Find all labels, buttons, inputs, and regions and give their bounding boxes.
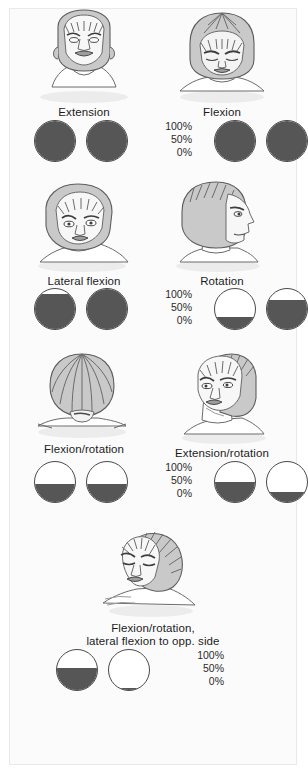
scale-label-0: 0%	[152, 487, 192, 500]
assessment-item-lateral-flexion: Lateral flexion	[16, 178, 152, 289]
gauge-right	[86, 461, 128, 503]
gauge-row: 100% 50% 0%	[10, 120, 296, 162]
gauge-left	[34, 120, 76, 162]
gauge-row: 100% 50% 0%	[10, 649, 296, 691]
scale-label-50: 50%	[152, 133, 192, 146]
gauge-right	[266, 461, 306, 503]
assessment-row-extension-flexion: Extension Flexio	[10, 9, 296, 162]
scale-label-100: 100%	[152, 461, 192, 474]
gauge-right	[86, 288, 128, 330]
gauge-right	[266, 120, 306, 162]
scale-label-50: 50%	[168, 662, 224, 675]
gauge-left	[34, 288, 76, 330]
gauge-left	[214, 120, 256, 162]
figure-panel: Extension Flexio	[9, 8, 297, 765]
assessment-row-flexionrotation-lateral: Flexion/rotation, lateral flexion to opp…	[10, 525, 296, 691]
assessment-label: Extension/rotation	[175, 447, 269, 461]
assessment-item-rotation: Rotation	[154, 178, 290, 289]
head-rotation-profile-icon	[160, 178, 284, 274]
gauge-group-right	[192, 461, 306, 503]
gauge-group-left	[16, 288, 152, 330]
assessment-item-extension: Extension	[16, 9, 152, 120]
scale-label-100: 100%	[152, 288, 192, 301]
assessment-row-flexionrotation-extensionrotation: Flexion/rotation	[10, 346, 296, 503]
gauge-left	[214, 288, 256, 330]
assessment-label: Extension	[58, 106, 109, 120]
assessment-item-flexion-rotation: Flexion/rotation	[16, 346, 152, 461]
gauge-group-right	[192, 120, 306, 162]
gauge-left	[56, 649, 98, 691]
gauge-right	[86, 120, 128, 162]
head-extension-rotation-icon	[160, 346, 284, 446]
scale-label-100: 100%	[168, 649, 224, 662]
gauge-scale: 100% 50% 0%	[152, 461, 194, 500]
scale-label-50: 50%	[152, 474, 192, 487]
assessment-label: Flexion/rotation	[44, 443, 124, 457]
head-extension-front-icon	[22, 9, 146, 105]
gauge-group-left	[16, 461, 152, 503]
assessment-label: Rotation	[200, 275, 244, 289]
assessment-row-lateralflexion-rotation: Lateral flexion Rotation	[10, 178, 296, 331]
gauge-scale: 100% 50% 0%	[152, 649, 226, 688]
assessment-label: Flexion	[203, 106, 241, 120]
gauge-group-left	[16, 120, 152, 162]
scale-label-0: 0%	[168, 675, 224, 688]
head-flexion-rotation-lateral-icon	[91, 525, 215, 621]
scale-label-0: 0%	[152, 314, 192, 327]
assessment-item-flexion: Flexion	[154, 9, 290, 120]
scale-label-0: 0%	[152, 146, 192, 159]
gauge-group-right	[192, 288, 306, 330]
gauge-right	[108, 649, 150, 691]
gauge-left	[34, 461, 76, 503]
gauge-scale: 100% 50% 0%	[152, 288, 194, 327]
gauge-row: 100% 50% 0%	[10, 288, 296, 330]
scale-label-50: 50%	[152, 301, 192, 314]
head-flexion-rotation-crown-icon	[22, 346, 146, 442]
assessment-item-flexion-rotation-lateral: Flexion/rotation, lateral flexion to opp…	[63, 525, 243, 649]
gauge-right	[266, 288, 306, 330]
scale-label-100: 100%	[152, 120, 192, 133]
gauge-scale: 100% 50% 0%	[152, 120, 194, 159]
gauge-group-left	[16, 649, 152, 691]
gauge-row: 100% 50% 0%	[10, 461, 296, 503]
assessment-label: Lateral flexion	[47, 275, 120, 289]
assessment-label: Flexion/rotation, lateral flexion to opp…	[86, 622, 219, 649]
head-lateral-flexion-icon	[22, 178, 146, 274]
head-flexion-top-icon	[160, 9, 284, 105]
gauge-left	[214, 461, 256, 503]
assessment-item-extension-rotation: Extension/rotation	[154, 346, 290, 461]
